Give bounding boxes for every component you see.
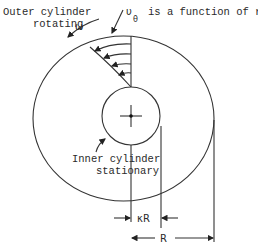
velocity-subscript: θ — [133, 15, 138, 24]
velocity-profile — [90, 36, 131, 87]
pointer-arrow-icon — [112, 10, 123, 33]
velocity-description: is a function of r — [148, 6, 258, 18]
inner-label-line1: Inner cylinder — [72, 153, 160, 165]
couette-flow-diagram: Outer cylinder rotating ω υ θ is a funct… — [0, 0, 258, 250]
velocity-symbol: υ — [126, 6, 132, 17]
omega-label: ω — [75, 21, 83, 32]
inner-label-line2: stationary — [96, 165, 159, 177]
outer-label-line1: Outer cylinder — [3, 6, 91, 18]
center-mark-icon — [120, 105, 142, 127]
dimension-lines — [114, 120, 214, 242]
r-label: R — [160, 233, 167, 244]
kappa-r-label: κR — [137, 213, 150, 224]
inner-pointer-arrow-icon — [96, 139, 105, 152]
